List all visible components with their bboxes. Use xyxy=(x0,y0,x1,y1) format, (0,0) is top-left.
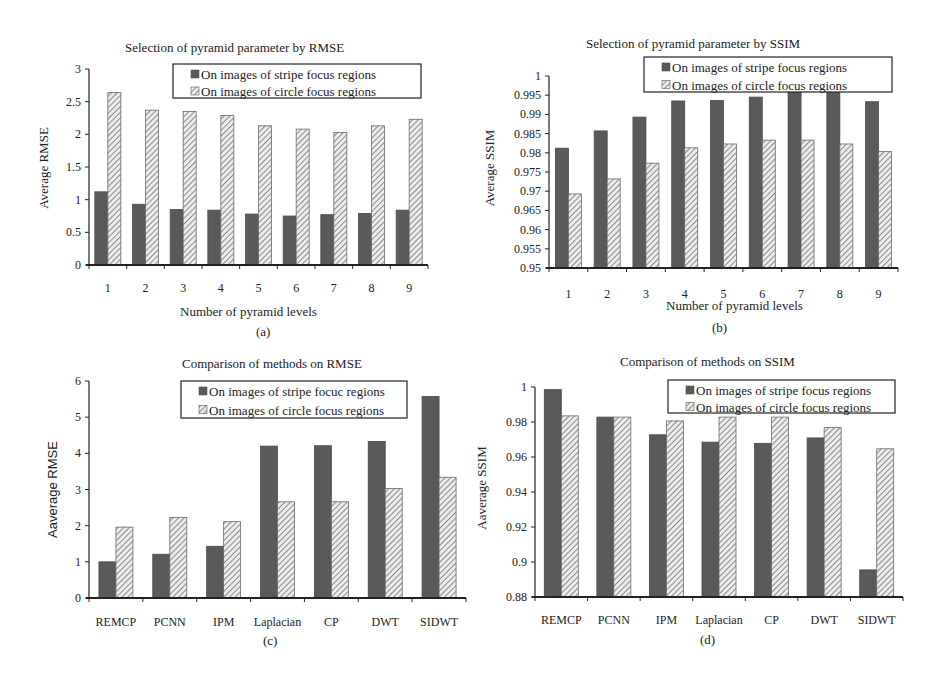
x-tick-label: SIDWT xyxy=(858,613,897,627)
x-tick-label: REMCP xyxy=(541,613,582,627)
bar-circle xyxy=(183,111,196,265)
bar-circle xyxy=(666,421,683,597)
bar-circle xyxy=(801,140,814,268)
x-tick-label: SIDWT xyxy=(420,615,459,629)
bar-circle xyxy=(685,148,698,268)
bar-stripe xyxy=(788,91,801,268)
legend-label: On images of circle focus regions xyxy=(209,403,384,418)
bar-circle xyxy=(439,477,456,598)
bar-stripe xyxy=(208,210,221,265)
x-tick-label: 5 xyxy=(256,281,262,295)
x-tick-label: 3 xyxy=(643,287,649,301)
bar-stripe xyxy=(555,148,568,268)
y-tick-label: 6 xyxy=(75,374,81,388)
x-tick-label: CP xyxy=(324,615,339,629)
bar-circle xyxy=(877,449,894,597)
x-tick-label: 4 xyxy=(218,281,224,295)
bar-circle xyxy=(224,522,241,598)
x-tick-label: DWT xyxy=(372,615,400,629)
x-tick-label: Laplacian xyxy=(695,613,742,627)
chart-c-plot: 0123456REMCPPCNNIPMLaplacianCPDWTSIDWTOn… xyxy=(75,374,466,629)
bar-circle xyxy=(116,527,133,598)
x-tick-label: 8 xyxy=(369,281,375,295)
chart-b-plot: 0.950.9550.960.9650.970.9750.980.9850.99… xyxy=(514,57,898,301)
y-tick-label: 0.96 xyxy=(520,223,541,237)
chart-d-caption: (d) xyxy=(700,632,715,648)
bar-stripe xyxy=(321,215,334,265)
legend-label: On images of stripe focus regions xyxy=(201,67,376,82)
x-tick-label: DWT xyxy=(810,613,838,627)
bar-stripe xyxy=(314,446,331,598)
bar-stripe xyxy=(755,443,772,597)
bar-stripe xyxy=(261,446,278,598)
bar-stripe xyxy=(711,101,724,268)
bar-circle xyxy=(772,417,789,597)
bar-circle xyxy=(840,144,853,268)
bar-stripe xyxy=(170,209,183,265)
y-tick-label: 2 xyxy=(75,519,81,533)
x-tick-label: PCNN xyxy=(154,615,186,629)
legend-label: On images of stripe focus regions xyxy=(696,383,871,398)
bar-circle xyxy=(385,488,402,598)
y-tick-label: 0.955 xyxy=(514,242,541,256)
y-tick-label: 0.985 xyxy=(514,127,541,141)
legend-swatch-hatched-icon xyxy=(686,403,694,411)
x-tick-label: 2 xyxy=(604,287,610,301)
y-tick-label: 3 xyxy=(75,483,81,497)
bar-circle xyxy=(762,140,775,268)
x-tick-label: PCNN xyxy=(598,613,630,627)
x-tick-label: 1 xyxy=(565,287,571,301)
chart-c-caption: (c) xyxy=(263,633,277,649)
chart-a-xlabel: Number of pyramid levels xyxy=(180,304,317,320)
x-tick-label: 8 xyxy=(837,287,843,301)
y-tick-label: 1 xyxy=(75,555,81,569)
bar-stripe xyxy=(368,441,385,598)
legend-label: On images of stripe focuc regions xyxy=(209,384,385,399)
chart-b-xlabel: Number of pyramid levels xyxy=(666,298,803,314)
bar-stripe xyxy=(672,101,685,268)
bar-stripe xyxy=(246,214,259,265)
y-tick-label: 0.965 xyxy=(514,203,541,217)
bar-circle xyxy=(108,93,121,265)
bar-stripe xyxy=(207,546,224,598)
chart-d-ylabel: Aaverage SSIM xyxy=(474,438,490,538)
bar-circle xyxy=(879,152,892,268)
y-tick-label: 0.94 xyxy=(506,485,527,499)
y-tick-label: 5 xyxy=(75,410,81,424)
y-tick-label: 4 xyxy=(75,446,81,460)
bar-circle xyxy=(170,517,187,598)
chart-a-caption: (a) xyxy=(256,324,270,340)
y-tick-label: 1.5 xyxy=(66,160,81,174)
x-tick-label: 7 xyxy=(331,281,337,295)
figure-canvas: 00.511.522.53123456789On images of strip… xyxy=(0,0,936,680)
y-tick-label: 0.96 xyxy=(506,450,527,464)
bar-circle xyxy=(824,428,841,597)
y-tick-label: 0.99 xyxy=(520,107,541,121)
y-tick-label: 0.975 xyxy=(514,165,541,179)
y-tick-label: 0.995 xyxy=(514,88,541,102)
bar-circle xyxy=(221,115,234,265)
bar-stripe xyxy=(359,213,372,265)
x-tick-label: 9 xyxy=(876,287,882,301)
y-tick-label: 2.5 xyxy=(66,95,81,109)
y-tick-label: 0.98 xyxy=(520,146,541,160)
chart-c-ylabel: Aaverage RMSE xyxy=(45,440,60,540)
bar-stripe xyxy=(153,554,170,598)
y-tick-label: 0.88 xyxy=(506,590,527,604)
bar-circle xyxy=(646,163,659,268)
bar-circle xyxy=(146,110,159,265)
bar-stripe xyxy=(702,442,719,597)
legend-label: On images of circle focus regions xyxy=(696,400,871,415)
chart-a-plot: 00.511.522.53123456789On images of strip… xyxy=(66,62,428,295)
legend-label: On images of circle focus regions xyxy=(672,78,847,93)
chart-c-title: Comparison of methods on RMSE xyxy=(182,356,362,372)
x-tick-label: IPM xyxy=(213,615,235,629)
legend-swatch-solid-icon xyxy=(662,63,670,71)
y-tick-label: 0 xyxy=(75,591,81,605)
bar-stripe xyxy=(544,390,561,597)
legend-swatch-solid-icon xyxy=(191,70,199,78)
y-tick-label: 1 xyxy=(535,69,541,83)
y-tick-label: 1 xyxy=(521,380,527,394)
bar-circle xyxy=(259,126,272,265)
chart-d-title: Comparison of methods on SSIM xyxy=(620,354,795,370)
